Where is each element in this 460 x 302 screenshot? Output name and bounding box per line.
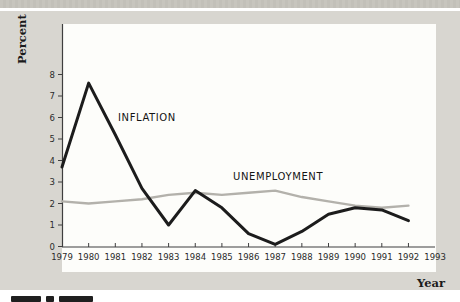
y-tick-label: 5 (50, 134, 55, 144)
x-tick-label: 1993 (424, 252, 446, 262)
line-chart: 0123456781979198019811982198319841985198… (40, 24, 450, 290)
x-tick-label: 1988 (291, 252, 313, 262)
y-tick-label: 8 (50, 70, 55, 80)
x-tick-label: 1992 (398, 252, 420, 262)
inflation-series-label: INFLATION (118, 112, 176, 123)
clipped-word (11, 296, 41, 302)
x-tick-label: 1989 (318, 252, 340, 262)
page-top-texture-strip (0, 0, 460, 8)
clipped-caption-fragment (11, 296, 93, 302)
x-tick-label: 1979 (51, 252, 73, 262)
clipped-word (59, 296, 93, 302)
y-axis-title: Percent (16, 20, 28, 64)
x-tick-label: 1982 (131, 252, 153, 262)
x-tick-label: 1985 (211, 252, 233, 262)
inflation-line (62, 83, 408, 244)
y-tick-label: 0 (50, 242, 55, 252)
x-tick-label: 1983 (158, 252, 180, 262)
x-tick-label: 1981 (104, 252, 126, 262)
x-tick-label: 1991 (371, 252, 393, 262)
unemployment-series-label: UNEMPLOYMENT (233, 171, 323, 182)
x-tick-label: 1980 (78, 252, 100, 262)
textbook-figure-screenshot: 0123456781979198019811982198319841985198… (0, 0, 460, 302)
x-tick-label: 1990 (344, 252, 366, 262)
y-tick-label: 1 (50, 220, 55, 230)
y-tick-label: 7 (50, 91, 55, 101)
y-tick-label: 6 (50, 113, 55, 123)
y-tick-label: 4 (50, 156, 55, 166)
y-tick-label: 3 (50, 177, 55, 187)
unemployment-line (62, 191, 408, 208)
x-tick-label: 1986 (238, 252, 260, 262)
clipped-word (46, 296, 54, 302)
x-tick-label: 1987 (264, 252, 286, 262)
y-tick-label: 2 (50, 199, 55, 209)
x-axis-title: Year (417, 276, 445, 290)
x-tick-label: 1984 (184, 252, 206, 262)
